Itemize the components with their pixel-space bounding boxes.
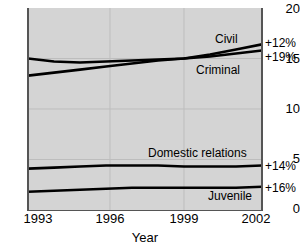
series-line-domestic-relations (28, 166, 262, 169)
y-axis-line (27, 8, 29, 211)
x-tick-label-2002: 2002 (227, 212, 285, 226)
x-tick-label-1996: 1996 (81, 212, 139, 226)
series-label-domestic-relations: Domestic relations (148, 147, 247, 159)
x-tick-label-1999: 1999 (155, 212, 213, 226)
x-axis-line (27, 210, 263, 212)
x-axis-title: Year (0, 231, 290, 245)
change-label-juvenile: +16% (265, 182, 296, 194)
x-tick-label-1993: 1993 (9, 212, 67, 226)
plot-right-edge (261, 8, 263, 211)
change-label-domestic-relations: +14% (265, 160, 296, 172)
series-label-criminal: Criminal (196, 64, 240, 76)
chart-figure: 20 15 10 5 0 1993 1996 1999 2002 Year Ci… (0, 0, 300, 247)
series-label-juvenile: Juvenile (208, 190, 252, 202)
series-label-civil: Civil (215, 33, 238, 45)
change-label-criminal: +19% (265, 51, 296, 63)
y-tick-label-10: 10 (276, 102, 300, 115)
y-tick-label-20: 20 (276, 2, 300, 15)
change-label-civil: +12% (265, 37, 296, 49)
